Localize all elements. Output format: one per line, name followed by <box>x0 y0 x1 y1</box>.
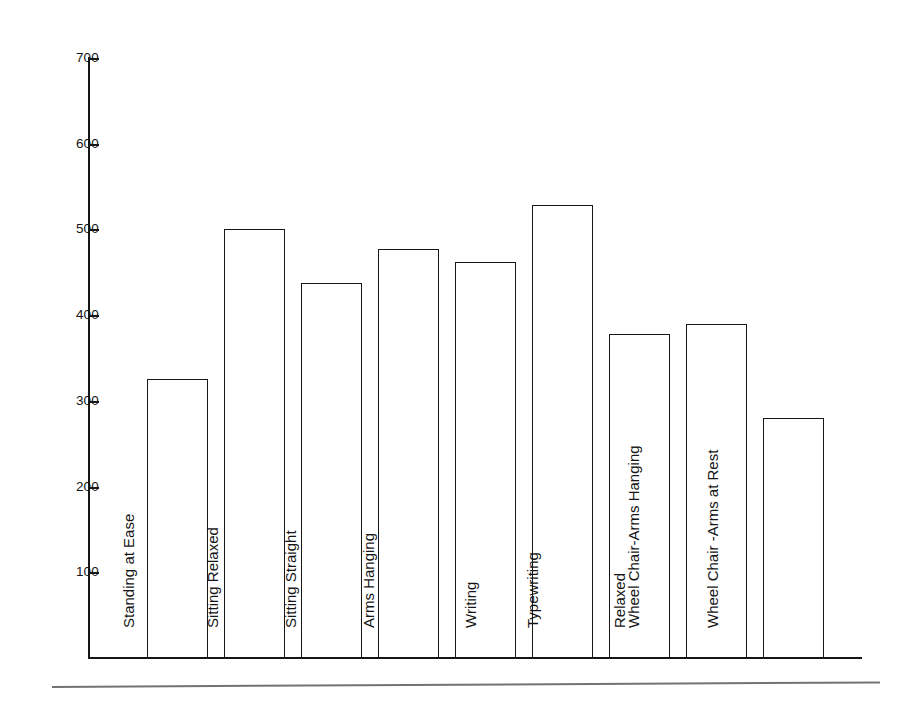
bar[interactable]: Typewriting <box>532 205 593 658</box>
y-axis-tick-200: 200 <box>0 480 99 494</box>
bar-category-label: Standing at Ease <box>120 514 135 628</box>
bar[interactable]: Wheel Chair -Arms at Rest <box>763 418 824 658</box>
footer-rule <box>52 681 880 688</box>
y-axis-tick-mark <box>88 572 99 574</box>
bar[interactable]: Arms Hanging <box>378 249 439 658</box>
y-axis-tick-mark <box>88 487 99 489</box>
bar-category-label: Writing <box>462 582 477 628</box>
y-axis-tick-400: 400 <box>0 308 99 322</box>
bar-category-label: Sitting Straight <box>283 530 298 628</box>
bar-category-label: Arms Hanging <box>361 533 376 628</box>
bar-chart: 100200300400500600700 Standing at EaseSi… <box>0 0 903 703</box>
y-axis-tick-mark <box>88 315 99 317</box>
y-axis-tick-mark <box>88 144 99 146</box>
y-axis-tick-700: 700 <box>0 51 99 65</box>
bar[interactable]: Sitting Straight <box>301 283 362 658</box>
bar-category-label: Wheel Chair -Arms at Rest <box>704 450 719 628</box>
y-axis-tick-500: 500 <box>0 222 99 236</box>
bar[interactable]: Sitting Relaxed <box>224 229 285 658</box>
bar-label-container: Typewriting <box>533 206 592 657</box>
bar-label-container: Standing at Ease <box>148 380 207 657</box>
bar[interactable]: Standing at Ease <box>147 379 208 658</box>
bar-label-container: Sitting Relaxed <box>225 230 284 657</box>
bar-label-container: Sitting Straight <box>302 284 361 657</box>
bar-label-container: Wheel Chair -Arms at Rest <box>764 419 823 657</box>
bar-label-container: Arms Hanging <box>379 250 438 657</box>
bar[interactable]: Writing <box>455 262 516 658</box>
bar-category-label: Wheel Chair-Arms Hanging <box>625 445 640 628</box>
bar-label-container: Writing <box>456 263 515 657</box>
bar-category-label: Typewriting <box>525 552 540 628</box>
bar-category-label: Sitting Relaxed <box>204 527 219 628</box>
y-axis-tick-mark <box>88 229 99 231</box>
y-axis-tick-100: 100 <box>0 565 99 579</box>
y-axis-tick-mark <box>88 58 99 60</box>
y-axis-tick-600: 600 <box>0 137 99 151</box>
y-axis-tick-300: 300 <box>0 394 99 408</box>
y-axis-tick-mark <box>88 401 99 403</box>
